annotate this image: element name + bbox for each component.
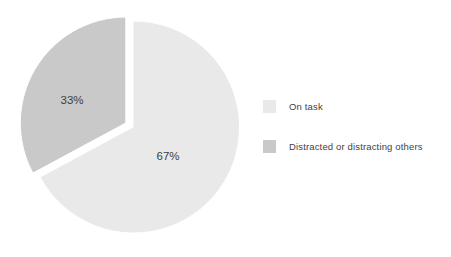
pie-label-on-task: 67% [156,150,179,162]
pie-label-distracted: 33% [60,94,83,106]
legend-swatch-distracted [263,140,276,153]
legend-item-distracted[interactable]: Distracted or distracting others [263,134,443,158]
chart-legend: On task Distracted or distracting others [263,94,443,174]
legend-label-on-task: On task [289,101,323,112]
pie-chart: 67% 33% On task Distracted or distractin… [0,0,451,257]
legend-swatch-on-task [263,100,276,113]
legend-label-distracted: Distracted or distracting others [289,141,423,152]
legend-item-on-task[interactable]: On task [263,94,443,118]
